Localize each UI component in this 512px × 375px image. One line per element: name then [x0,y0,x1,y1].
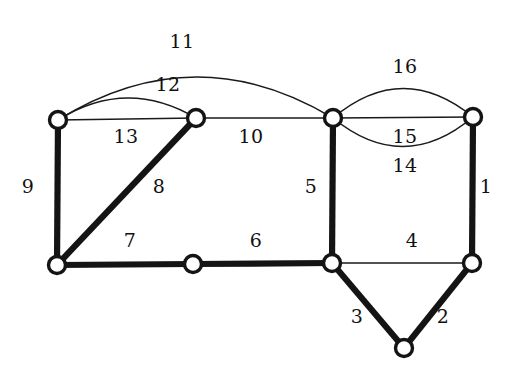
edge-label-5: 5 [305,177,318,196]
edge-label-10: 10 [239,127,264,146]
edge-label-7: 7 [124,231,137,250]
graph-canvas [0,0,512,375]
edge-label-16: 16 [393,57,418,76]
graph-edge-5 [332,118,333,263]
graph-edge-16 [333,88,473,118]
edge-label-11: 11 [170,32,195,51]
graph-edge-6 [193,263,332,264]
edge-label-15: 15 [393,127,418,146]
graph-edge-12 [58,98,196,120]
node-bottom-right [464,255,481,272]
edge-label-3: 3 [351,307,364,326]
edge-label-13: 13 [114,127,139,146]
graph-edge-15 [333,117,473,118]
node-bottom-apex [396,340,413,357]
edge-label-4: 4 [406,231,419,250]
graph-figure: 12345678910111213141516 [0,0,512,375]
node-bottom-middle [185,256,202,273]
graph-edge-7 [57,264,193,265]
node-top-right [465,109,482,126]
graph-edge-13 [58,118,196,120]
edge-label-2: 2 [437,307,450,326]
graph-edge-3 [332,263,404,348]
edge-label-1: 1 [480,177,493,196]
node-top-center [325,110,342,127]
graph-edge-1 [472,117,473,263]
graph-edge-9 [57,120,58,265]
edge-layer [57,77,473,348]
edge-label-9: 9 [22,177,35,196]
edge-label-6: 6 [250,231,263,250]
node-bottom-center [324,255,341,272]
node-top-inner [188,110,205,127]
node-bottom-left [49,257,66,274]
edge-label-12: 12 [156,75,181,94]
edge-label-14: 14 [393,156,418,175]
edge-label-8: 8 [153,177,166,196]
node-top-left [50,112,67,129]
